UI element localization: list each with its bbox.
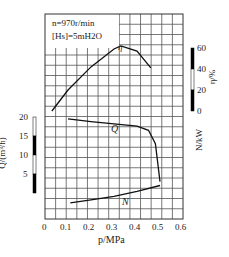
η-curve	[52, 46, 151, 111]
eta-tick: 20	[197, 85, 206, 95]
q-axis-label: Q/(m³/h)	[0, 137, 7, 169]
eta-tick: 0	[197, 106, 202, 116]
pump-characteristic-chart: n=970r/min [Hs]=5mH2O η Q N p/MPa Q/(m³/…	[0, 0, 229, 257]
n-curve-label: N	[122, 196, 129, 207]
x-axis-label: p/MPa	[98, 234, 125, 245]
x-tick: 0.5	[152, 222, 163, 232]
eta-tick: 60	[197, 43, 206, 53]
x-tick: 0.4	[129, 222, 140, 232]
eta-tick: 40	[197, 64, 206, 74]
q-tick: 10	[19, 150, 28, 160]
x-tick: 0.2	[83, 222, 94, 232]
suction-head-annotation: [Hs]=5mH2O	[52, 31, 102, 41]
q-tick: 5	[23, 169, 28, 179]
x-tick: 0.6	[175, 222, 186, 232]
n-axis-label: N/kW	[194, 129, 204, 151]
x-tick: 0	[42, 222, 47, 232]
eta-axis-label: η/%	[207, 70, 217, 85]
eta-curve-label: η	[118, 42, 122, 52]
q-tick: 20	[19, 112, 28, 122]
speed-annotation: n=970r/min	[52, 18, 95, 28]
x-tick: 0.1	[60, 222, 71, 232]
q-curve-label: Q	[111, 123, 118, 134]
q-tick: 15	[19, 131, 28, 141]
x-tick: 0.3	[106, 222, 117, 232]
